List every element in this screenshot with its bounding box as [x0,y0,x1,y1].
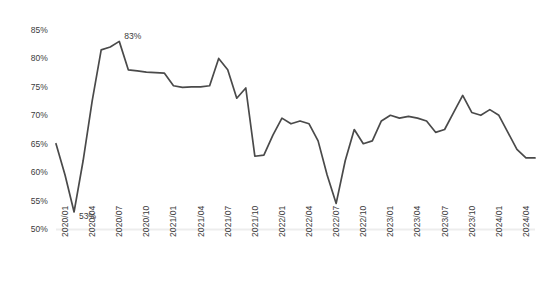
x-tick-label: 2024/04 [521,206,531,237]
y-tick-label: 60% [14,167,48,177]
y-tick-label: 65% [14,139,48,149]
y-tick-label: 50% [14,224,48,234]
x-tick-label: 2023/07 [440,206,450,237]
x-tick-label: 2023/01 [385,206,395,237]
point-annotation: 83% [124,31,141,41]
x-tick-label: 2020/10 [141,206,151,237]
x-tick-label: 2023/04 [412,206,422,237]
y-tick-label: 80% [14,53,48,63]
x-tick-label: 2021/10 [250,206,260,237]
chart-plot-area [0,0,543,308]
x-tick-label: 2022/04 [304,206,314,237]
x-tick-label: 2020/01 [60,206,70,237]
line-chart: 50%55%60%65%70%75%80%85% 2020/012020/042… [0,0,543,308]
x-tick-label: 2021/04 [196,206,206,237]
x-tick-label: 2024/01 [494,206,504,237]
point-annotation: 53% [79,211,96,221]
x-tick-label: 2022/01 [277,206,287,237]
x-tick-label: 2022/07 [331,206,341,237]
y-tick-label: 55% [14,196,48,206]
x-tick-label: 2022/10 [358,206,368,237]
x-tick-label: 2023/10 [467,206,477,237]
x-tick-label: 2020/07 [114,206,124,237]
data-series-line [56,41,535,212]
y-tick-label: 85% [14,25,48,35]
x-tick-label: 2021/01 [168,206,178,237]
y-tick-label: 70% [14,110,48,120]
y-tick-label: 75% [14,82,48,92]
x-tick-label: 2021/07 [223,206,233,237]
